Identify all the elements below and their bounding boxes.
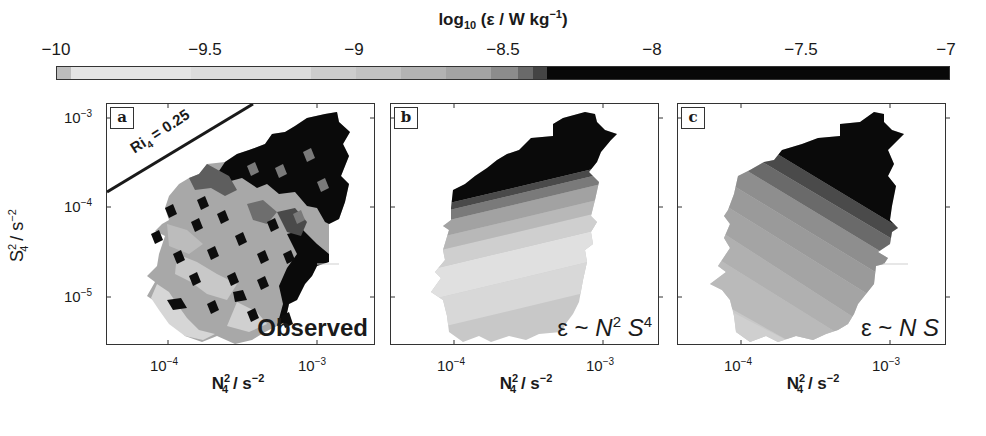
colorbar-tick: −7 [936,40,955,60]
colorbar-tick: −10 [42,40,71,60]
x-tick-label: 10−4 [437,356,465,374]
colorbar-segment [446,67,491,79]
panel-b-heatmap [391,104,659,345]
colorbar-title: log10 (ε / W kg−1) [0,8,986,31]
colorbar-tick: −9 [344,40,363,60]
colorbar-segment [518,67,533,79]
colorbar [56,66,950,80]
colorbar-tick: −7.5 [784,40,818,60]
panel-label-b: b [394,107,418,129]
colorbar-segment [191,67,311,79]
x-tick-label: 10−3 [298,356,326,374]
y-axis-label: S24 / s−2 [6,209,30,262]
colorbar-segment [547,67,949,79]
colorbar-tick: −9.5 [188,40,222,60]
colorbar-tick: −8.5 [486,40,520,60]
colorbar-segment [533,67,547,79]
y-tick-label: 10−5 [64,287,92,305]
panel-c-model-ns: c ε ~ N S [677,103,946,345]
x-axis-label-a: N24 / s−2 [212,372,265,395]
x-tick-label: 10−3 [586,356,614,374]
colorbar-segment [71,67,191,79]
panel-c-heatmap [678,104,946,345]
x-axis-label-c: N24 / s−2 [787,372,840,395]
y-tick-label: 10−4 [64,197,92,215]
colorbar-segment [356,67,401,79]
colorbar-segment [57,67,71,79]
colorbar-tick: −8 [642,40,661,60]
panel-b-model-n2s4: b ε ~ N2 S4 [390,103,659,345]
colorbar-segment [401,67,446,79]
model-n2s4-annotation: ε ~ N2 S4 [557,313,652,342]
colorbar-segment [311,67,356,79]
x-tick-label: 10−3 [872,356,900,374]
panel-label-c: c [681,107,705,129]
panel-label-a: a [110,107,134,129]
panel-a-observed: a Ri4 = 0.25 Observed [106,103,375,345]
x-tick-label: 10−4 [724,356,752,374]
model-ns-annotation: ε ~ N S [861,314,939,342]
y-tick-label: 10−3 [64,108,92,126]
observed-annotation: Observed [257,314,368,342]
x-tick-label: 10−4 [150,356,178,374]
colorbar-segment [491,67,518,79]
x-axis-label-b: N24 / s−2 [500,372,553,395]
